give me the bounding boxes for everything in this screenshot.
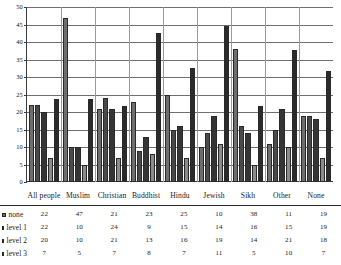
y-axis-tick-label: 50 bbox=[16, 4, 23, 10]
bar[interactable] bbox=[292, 50, 297, 182]
table-row-values: 201021131619142118 bbox=[27, 236, 341, 245]
legend-label: level 1 bbox=[7, 223, 28, 232]
table-row-values: 224721232510381119 bbox=[27, 210, 341, 219]
table-cell: 7 bbox=[167, 249, 202, 258]
category-label: Christian bbox=[95, 190, 129, 202]
table-cell: 11 bbox=[201, 249, 236, 258]
bar[interactable] bbox=[245, 133, 250, 182]
legend-swatch-icon bbox=[2, 226, 4, 230]
bar[interactable] bbox=[286, 147, 291, 182]
bar[interactable] bbox=[326, 71, 331, 182]
bar[interactable] bbox=[131, 102, 136, 183]
table-cell: 16 bbox=[236, 223, 271, 232]
table-cell: 18 bbox=[306, 236, 341, 245]
bar[interactable] bbox=[190, 68, 195, 182]
bar[interactable] bbox=[48, 158, 53, 183]
bar[interactable] bbox=[143, 137, 148, 183]
legend-item-none[interactable]: none bbox=[0, 210, 27, 219]
bar[interactable] bbox=[29, 105, 34, 182]
y-axis-tick-label: 10 bbox=[16, 144, 23, 150]
bar[interactable] bbox=[35, 105, 40, 182]
bar[interactable] bbox=[63, 18, 68, 183]
bar[interactable] bbox=[88, 99, 93, 182]
bar[interactable] bbox=[252, 165, 257, 183]
group-separator bbox=[299, 7, 300, 182]
bar[interactable] bbox=[116, 158, 121, 183]
table-cell: 21 bbox=[97, 210, 132, 219]
bar[interactable] bbox=[279, 109, 284, 183]
bar-group bbox=[299, 7, 333, 182]
legend-item-level-1[interactable]: level 1 bbox=[0, 223, 27, 232]
bar[interactable] bbox=[97, 109, 102, 183]
bar-group bbox=[95, 7, 129, 182]
bar[interactable] bbox=[307, 116, 312, 183]
bar[interactable] bbox=[165, 95, 170, 183]
table-cell: 47 bbox=[62, 210, 97, 219]
chart-plot-area: 05101520253035404550 All peopleMuslimChr… bbox=[0, 0, 341, 200]
table-cell: 10 bbox=[62, 223, 97, 232]
bar-group bbox=[163, 7, 197, 182]
table-cell: 9 bbox=[132, 223, 167, 232]
legend-label: none bbox=[9, 210, 24, 219]
y-axis-tick-label: 30 bbox=[16, 74, 23, 80]
table-cell: 20 bbox=[27, 236, 62, 245]
table-cell: 16 bbox=[167, 236, 202, 245]
bar[interactable] bbox=[82, 165, 87, 183]
table-cell: 10 bbox=[201, 210, 236, 219]
legend-label: level 2 bbox=[7, 236, 28, 245]
category-label: Jewish bbox=[197, 190, 231, 202]
bar-group bbox=[265, 7, 299, 182]
table-row: level 3 75787115107 bbox=[0, 247, 341, 260]
bar[interactable] bbox=[224, 26, 229, 182]
y-axis-tick-label: 25 bbox=[16, 91, 23, 97]
bar[interactable] bbox=[122, 106, 127, 182]
table-cell: 22 bbox=[27, 223, 62, 232]
bar[interactable] bbox=[320, 158, 325, 183]
bar[interactable] bbox=[171, 130, 176, 183]
bar[interactable] bbox=[267, 144, 272, 183]
category-label: Other bbox=[265, 190, 299, 202]
bar[interactable] bbox=[54, 99, 59, 182]
table-top-rule bbox=[0, 205, 341, 206]
category-label: Sikh bbox=[231, 190, 265, 202]
bar[interactable] bbox=[211, 116, 216, 183]
category-label: Muslim bbox=[61, 190, 95, 202]
table-cell: 19 bbox=[306, 210, 341, 219]
table-cell: 13 bbox=[132, 236, 167, 245]
bar[interactable] bbox=[103, 98, 108, 182]
bar[interactable] bbox=[184, 158, 189, 183]
bar-group bbox=[61, 7, 95, 182]
table-cell: 38 bbox=[236, 210, 271, 219]
y-axis-tick-label: 35 bbox=[16, 56, 23, 62]
table-cell: 7 bbox=[97, 249, 132, 258]
bar[interactable] bbox=[205, 133, 210, 182]
bar[interactable] bbox=[233, 49, 238, 182]
bar[interactable] bbox=[137, 151, 142, 183]
y-axis-tick bbox=[24, 182, 27, 183]
legend-item-level-3[interactable]: level 3 bbox=[0, 249, 27, 258]
bar[interactable] bbox=[199, 147, 204, 182]
bar[interactable] bbox=[177, 126, 182, 182]
table-row: level 2 201021131619142118 bbox=[0, 234, 341, 247]
table-cell: 21 bbox=[97, 236, 132, 245]
bar[interactable] bbox=[69, 147, 74, 182]
y-axis-tick-label: 45 bbox=[16, 21, 23, 27]
bar[interactable] bbox=[301, 116, 306, 183]
bar[interactable] bbox=[41, 112, 46, 182]
legend-item-level-2[interactable]: level 2 bbox=[0, 236, 27, 245]
table-cell: 14 bbox=[236, 236, 271, 245]
bar[interactable] bbox=[156, 33, 161, 182]
y-axis-tick-label: 40 bbox=[16, 39, 23, 45]
bar[interactable] bbox=[75, 147, 80, 182]
legend-swatch-icon bbox=[2, 213, 6, 217]
table-cell: 22 bbox=[27, 210, 62, 219]
bar[interactable] bbox=[273, 130, 278, 183]
bar[interactable] bbox=[258, 106, 263, 182]
table-cell: 5 bbox=[236, 249, 271, 258]
bar[interactable] bbox=[150, 154, 155, 182]
bar[interactable] bbox=[109, 109, 114, 183]
bar[interactable] bbox=[313, 119, 318, 182]
bar[interactable] bbox=[239, 126, 244, 182]
y-axis: 05101520253035404550 bbox=[0, 0, 26, 182]
bar[interactable] bbox=[218, 144, 223, 183]
